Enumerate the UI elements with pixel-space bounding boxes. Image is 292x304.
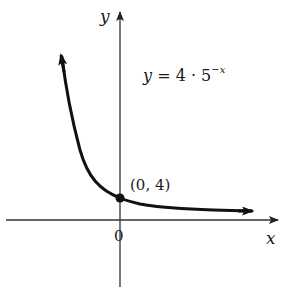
equation-lhs: y — [143, 66, 152, 85]
equation-label: y = 4 · 5−x — [143, 66, 225, 85]
equation-exponent: −x — [211, 64, 225, 75]
point-label: (0, 4) — [130, 176, 170, 194]
origin-label: 0 — [114, 227, 124, 245]
point-0-4 — [116, 194, 125, 203]
equation-rhs: = 4 · 5 — [157, 66, 211, 85]
exponential-graph — [0, 0, 292, 304]
x-axis-label: x — [266, 228, 276, 248]
y-axis-label: y — [100, 6, 110, 26]
